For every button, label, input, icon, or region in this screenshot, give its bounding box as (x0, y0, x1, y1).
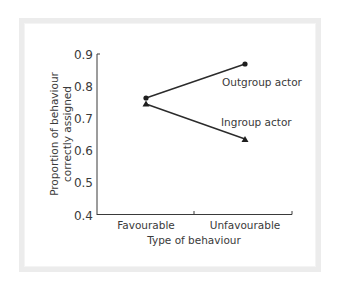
triangle-marker-icon (143, 101, 150, 107)
x-tick-unfavourable: Unfavourable (210, 219, 281, 231)
x-axis (97, 211, 292, 215)
x-axis-title: Type of behaviour (146, 234, 241, 246)
x-tick-favourable: Favourable (117, 219, 175, 231)
y-axis (97, 54, 100, 215)
triangle-marker-icon (242, 136, 249, 142)
label-ingroup-actor: Ingroup actor (221, 116, 292, 128)
circle-marker-icon (242, 61, 247, 66)
y-tick-0.5: 0.5 (74, 176, 93, 190)
y-tick-0.4: 0.4 (74, 209, 93, 223)
y-tick-0.8: 0.8 (74, 80, 93, 94)
y-tick-labels: 0.9 0.8 0.7 0.6 0.5 0.4 (74, 48, 93, 223)
y-axis-title-line1: Proportion of behaviour (48, 71, 60, 195)
label-outgroup-actor: Outgroup actor (222, 76, 303, 88)
circle-marker-icon (143, 95, 148, 100)
y-axis-title: Proportion of behaviour correctly assign… (48, 71, 73, 195)
line-chart: 0.9 0.8 0.7 0.6 0.5 0.4 Favourable Unfav… (0, 0, 337, 288)
y-tick-0.9: 0.9 (74, 48, 93, 62)
y-tick-0.7: 0.7 (74, 112, 93, 126)
y-tick-0.6: 0.6 (74, 144, 93, 158)
y-axis-title-line2: correctly assigned (61, 86, 73, 182)
